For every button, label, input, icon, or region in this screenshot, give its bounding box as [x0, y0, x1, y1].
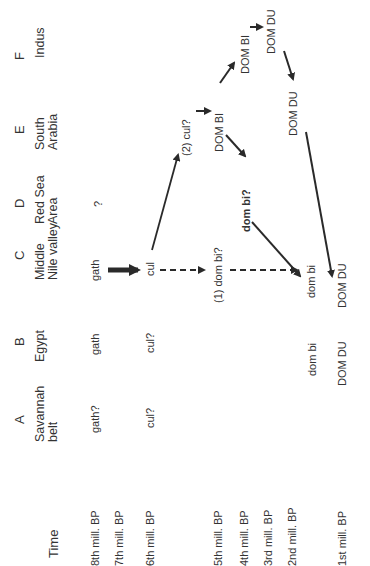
diagram-stage: Time A Savannah belt B Egypt C Middle Ni… [0, 0, 370, 566]
arrow-indus-to-south-arabia [284, 51, 293, 79]
arrow-cul-to-south-arabia [152, 155, 178, 250]
arrow-south-arabia-to-indus [220, 63, 234, 83]
arrows-layer [0, 0, 370, 566]
arrow-red-sea-to-nile [252, 222, 300, 276]
arrow-south-arabia-to-nile-du [306, 132, 332, 276]
diagram-canvas: Time A Savannah belt B Egypt C Middle Ni… [0, 0, 370, 566]
arrow-south-arabia-to-red-sea [226, 135, 245, 156]
